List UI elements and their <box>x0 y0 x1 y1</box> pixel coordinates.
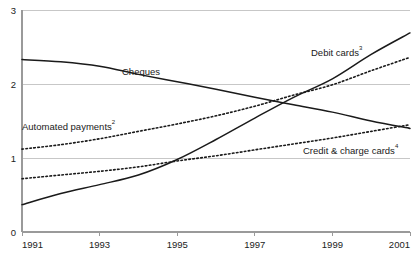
x-tick-label-1997: 1997 <box>244 239 265 250</box>
automated-label-text: Automated payments <box>22 121 112 132</box>
debit-cards-label-text: Debit cards <box>311 47 359 58</box>
cheques-label-text: Cheques <box>122 66 160 77</box>
y-tick-label-2: 2 <box>11 79 16 90</box>
line-chart: 0123 199119931995199719992001 ChequesDeb… <box>0 0 417 257</box>
y-tick-label-0: 0 <box>11 227 16 238</box>
credit-cards-label: Credit & charge cards4 <box>303 143 399 156</box>
x-tick-label-1991: 1991 <box>22 239 43 250</box>
y-tick-label-1: 1 <box>11 153 16 164</box>
cheques-label: Cheques <box>122 66 160 77</box>
debit-cards-label: Debit cards3 <box>311 45 363 58</box>
x-tick-label-1993: 1993 <box>89 239 110 250</box>
credit-cards-label-text: Credit & charge cards <box>303 145 395 156</box>
chart-container: 0123 199119931995199719992001 ChequesDeb… <box>0 0 417 257</box>
x-tick-label-1995: 1995 <box>167 239 188 250</box>
x-tick-label-1999: 1999 <box>322 239 343 250</box>
y-tick-label-3: 3 <box>11 5 16 16</box>
x-tick-label-2001: 2001 <box>389 239 410 250</box>
automated-label: Automated payments2 <box>22 119 116 132</box>
